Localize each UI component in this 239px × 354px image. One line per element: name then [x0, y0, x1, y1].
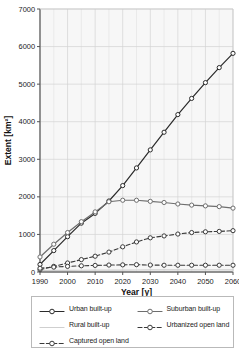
svg-text:2060: 2060	[225, 277, 239, 286]
legend-swatch-icon	[39, 303, 65, 314]
svg-text:2050: 2050	[197, 277, 213, 286]
svg-text:2030: 2030	[142, 277, 158, 286]
legend-label: Urbanized open land	[167, 319, 230, 330]
series-3	[40, 270, 233, 271]
y-axis-title: Extent [km²]	[3, 116, 13, 166]
chart-legend: Urban built-upSuburban built-upRural bui…	[31, 296, 234, 348]
svg-text:2010: 2010	[87, 277, 103, 286]
svg-text:0: 0	[31, 268, 35, 277]
legend-swatch-icon	[137, 319, 163, 330]
svg-text:5000: 5000	[19, 80, 35, 89]
svg-text:2020: 2020	[114, 277, 130, 286]
chart-figure: 0100020003000400050006000700019902000201…	[0, 0, 239, 354]
legend-swatch-icon	[137, 303, 163, 314]
legend-swatch-icon	[39, 335, 65, 346]
legend-label: Captured open land	[69, 335, 129, 346]
legend-item-2[interactable]: Suburban built-up	[133, 300, 234, 316]
svg-text:4000: 4000	[19, 117, 35, 126]
legend-swatch-icon	[39, 319, 65, 330]
svg-text:7000: 7000	[19, 5, 35, 14]
svg-text:1990: 1990	[32, 277, 48, 286]
svg-text:1000: 1000	[19, 230, 35, 239]
svg-text:2000: 2000	[59, 277, 75, 286]
svg-text:2000: 2000	[19, 192, 35, 201]
legend-label: Rural built-up	[69, 319, 109, 330]
legend-item-4[interactable]: Urbanized open land	[133, 316, 234, 332]
legend-label: Suburban built-up	[167, 303, 221, 314]
legend-item-5[interactable]: Captured open land	[32, 332, 233, 348]
svg-text:3000: 3000	[19, 155, 35, 164]
legend-item-3[interactable]: Rural built-up	[32, 316, 133, 332]
legend-label: Urban built-up	[69, 303, 112, 314]
svg-text:6000: 6000	[19, 42, 35, 51]
legend-item-1[interactable]: Urban built-up	[32, 300, 133, 316]
svg-text:2040: 2040	[170, 277, 186, 286]
